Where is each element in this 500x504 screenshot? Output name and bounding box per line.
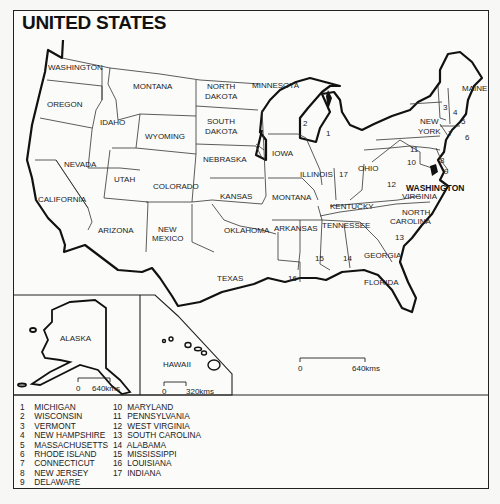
num-9: 9 xyxy=(444,167,449,176)
label-tennessee: TENNESSEE xyxy=(322,221,370,230)
num-17: 17 xyxy=(339,170,348,179)
label-iowa: IOWA xyxy=(272,149,294,158)
label-alaska: ALASKA xyxy=(60,334,92,343)
label-maine: MAINE xyxy=(462,84,487,93)
num-16: 16 xyxy=(288,274,297,283)
hawaii-scale-start: 0 xyxy=(162,387,167,396)
state-borders xyxy=(35,58,460,282)
label-north-carolina: NORTH xyxy=(402,208,431,217)
num-12: 12 xyxy=(387,180,396,189)
label-south-dakota: SOUTH xyxy=(207,117,235,126)
legend-item: 17 INDIANA xyxy=(113,469,201,478)
chesapeake-bay xyxy=(430,164,438,176)
label-north-carolina-2: CAROLINA xyxy=(390,217,432,226)
label-georgia: GEORGIA xyxy=(364,251,402,260)
num-6: 6 xyxy=(465,133,470,142)
label-hawaii: HAWAII xyxy=(163,360,191,369)
legend-item: 9 DELAWARE xyxy=(20,478,108,487)
num-2: 2 xyxy=(303,119,308,128)
num-5: 5 xyxy=(461,117,466,126)
label-nevada: NEVADA xyxy=(64,160,97,169)
alaska-outline xyxy=(18,300,130,394)
num-13: 13 xyxy=(395,233,404,242)
label-idaho: IDAHO xyxy=(100,118,125,127)
label-kansas: KANSAS xyxy=(220,192,252,201)
label-south-dakota-2: DAKOTA xyxy=(205,127,238,136)
label-oregon: OREGON xyxy=(47,100,83,109)
alaska-scale-start: 0 xyxy=(76,384,81,393)
num-7: 7 xyxy=(448,129,453,138)
label-arkansas: ARKANSAS xyxy=(274,224,318,233)
label-new-york: NEW xyxy=(420,117,439,126)
alaska-scale-end: 640kms xyxy=(92,384,120,393)
num-4: 4 xyxy=(453,108,458,117)
main-scale-end: 640kms xyxy=(352,364,380,373)
label-missouri: MONTANA xyxy=(272,193,312,202)
label-minnesota: MINNESOTA xyxy=(252,81,300,90)
label-north-dakota-2: DAKOTA xyxy=(205,92,238,101)
main-scale-start: 0 xyxy=(298,364,303,373)
num-14: 14 xyxy=(343,254,352,263)
label-arizona: ARIZONA xyxy=(98,226,134,235)
num-15: 15 xyxy=(315,254,324,263)
label-ohio: OHIO xyxy=(358,164,378,173)
label-washington-dc: WASHINGTON xyxy=(406,183,464,193)
num-10: 10 xyxy=(407,158,416,167)
label-north-dakota: NORTH xyxy=(207,82,236,91)
label-new-york-2: YORK xyxy=(418,127,441,136)
label-kentucky: KENTUCKY xyxy=(330,202,374,211)
label-illinois: ILLINOIS xyxy=(300,170,333,179)
label-wyoming: WYOMING xyxy=(145,132,185,141)
label-new-mexico: NEW xyxy=(158,225,177,234)
num-8: 8 xyxy=(440,156,445,165)
label-washington: WASHINGTON xyxy=(48,63,103,72)
label-utah: UTAH xyxy=(114,175,135,184)
label-texas: TEXAS xyxy=(217,274,243,283)
label-montana: MONTANA xyxy=(133,82,173,91)
num-11: 11 xyxy=(410,145,419,154)
label-virginia: VIRGINIA xyxy=(402,192,438,201)
label-oklahoma: OKLAHOMA xyxy=(224,226,270,235)
label-nebraska: NEBRASKA xyxy=(203,155,247,164)
num-1: 1 xyxy=(326,129,331,138)
label-colorado: COLORADO xyxy=(153,182,199,191)
label-california: CALIFORNIA xyxy=(38,195,87,204)
hawaii-scale-end: 320kms xyxy=(186,387,214,396)
legend-column-1: 1 MICHIGAN 2 WISCONSIN 3 VERMONT 4 NEW H… xyxy=(20,403,108,488)
legend-column-2: 10 MARYLAND 11 PENNSYLVANIA 12 WEST VIRG… xyxy=(113,403,201,478)
num-3: 3 xyxy=(443,103,448,112)
label-new-mexico-2: MEXICO xyxy=(152,234,184,243)
label-florida: FLORIDA xyxy=(364,278,399,287)
